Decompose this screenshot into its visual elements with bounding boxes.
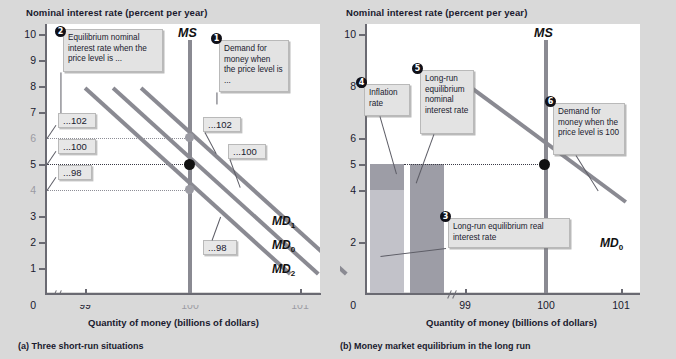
panel-a-md1-label: MD1 [272,214,295,230]
panel-b-right-clip-mask [640,24,676,295]
panel-a-guide-4 [47,190,189,191]
panel-b-callout-3-marker: 3 [440,211,451,222]
panel-a-ylabel-0: 0 [16,299,36,311]
panel-a-x-axis-line-top [45,293,321,295]
panel-a-caption: (a) Three short-run situations [18,341,144,351]
panel-a-three-short-run-situations: Nominal interest rate (percent per year)… [0,0,338,359]
panel-a-y-axis-title: Nominal interest rate (percent per year) [26,7,207,18]
panel-a-callout-equilibrium-rate: Equilibrium nominal interest rate when t… [63,29,163,72]
panel-b-caption: (b) Money market equilibrium in the long… [340,341,531,351]
panel-b-callout-5-marker: 5 [412,63,423,74]
panel-b-xlabel-101: 101 [606,299,636,311]
panel-b-ms-label: MS [534,26,553,40]
panel-b-bar-inflation-rate [370,164,404,190]
panel-b-ylabel-6: 6 [336,132,356,144]
panel-a-right-value-100: ...100 [228,144,266,159]
panel-b-ylabel-5: 5 [336,158,356,170]
panel-a-equilibrium-dot-5 [184,159,195,170]
panel-b-equilibrium-dot [539,159,550,170]
panel-a-right-value-98: ...98 [203,240,237,255]
panel-b-y-axis-line [365,24,367,295]
panel-a-ylabel-8: 8 [16,80,36,92]
panel-a-ytick-8 [39,86,45,88]
panel-b-bar-real-interest-rate [370,190,404,293]
panel-b-callout-inflation-rate: Inflation rate [364,84,410,116]
panel-a-ylabel-3: 3 [16,210,36,222]
panel-b-guide-5 [404,164,546,165]
panel-b-callout-6-marker: 6 [545,96,556,107]
panel-a-ylabel-2: 2 [16,236,36,248]
panel-b-xlabel-100: 100 [531,299,561,311]
panel-b-ytick-4 [359,190,365,192]
panel-b-ytick-5 [359,164,365,166]
panel-b-x-axis-line [365,293,641,295]
panel-a-md0-label: MD0 [272,238,295,254]
panel-a-ytick-1 [39,268,45,270]
panel-a-ylabel-7: 7 [16,106,36,118]
panel-b-ytick-10 [359,34,365,36]
panel-b-xlabel-99: 99 [450,299,480,311]
panel-a-md2-label: MD2 [272,262,295,278]
panel-a-ylabel-10: 10 [16,28,36,40]
panel-a-x-axis-title: Quantity of money (billions of dollars) [88,317,259,328]
panel-a-ylabel-9: 9 [16,54,36,66]
panel-a-left-value-102: ...102 [58,113,96,128]
panel-b-ylabel-0: 0 [336,299,356,311]
panel-b-x-axis-title: Quantity of money (billions of dollars) [426,317,597,328]
panel-a-ylabel-5: 5 [16,158,36,170]
panel-a-ylabel-4: 4 [16,184,36,196]
panel-a-right-value-102: ...102 [203,117,241,132]
panel-a-left-value-100: ...100 [58,139,96,154]
panel-b-md0-label: MD0 [600,236,623,252]
panel-b-xtick-101 [621,289,623,295]
panel-b-callout-demand-for-money: Demand for money when the price level is… [553,103,625,155]
panel-a-bottom-clip-mask [45,293,323,305]
panel-a-ylabel-1: 1 [16,262,36,274]
panel-a-callout-1-marker: 1 [211,33,222,44]
panel-a-ms-label: MS [178,26,197,40]
panel-b-ylabel-8: 8 [336,80,356,92]
panel-a-callout-2-marker: 2 [55,26,66,37]
panel-a-y-axis-line [45,24,47,295]
panel-a-ytick-5 [39,164,45,166]
panel-b-ytick-2 [359,242,365,244]
figure-money-market-equilibrium: Nominal interest rate (percent per year)… [0,0,676,359]
panel-a-ytick-3 [39,216,45,218]
panel-a-ytick-2 [39,242,45,244]
panel-a-equilibrium-dot-6 [185,133,194,142]
panel-b-ylabel-4: 4 [336,184,356,196]
panel-b-bar-nominal-interest-rate [410,164,444,293]
panel-b-callout-nominal-rate: Long-run equilibrium nominal interest ra… [420,70,474,134]
panel-b-callout-real-rate: Long-run equilibrium real interest rate [448,218,570,248]
panel-a-callout-1-leader [217,92,218,104]
panel-b-callout-4-marker: 4 [356,77,367,88]
panel-a-ytick-9 [39,60,45,62]
panel-a-ylabel-6: 6 [16,132,36,144]
panel-b-ylabel-10: 10 [336,28,356,40]
panel-b-ytick-6 [359,138,365,140]
panel-a-left-value-98: ...98 [58,165,92,180]
panel-b-xtick-99 [465,289,467,295]
panel-a-ytick-7 [39,112,45,114]
panel-b-y-axis-title: Nominal interest rate (percent per year) [346,7,527,18]
panel-a-callout-demand-for-money: Demand for money when the price level is… [219,40,289,92]
panel-b-long-run-equilibrium: Nominal interest rate (percent per year)… [338,0,676,359]
panel-a-equilibrium-dot-4 [185,185,194,194]
panel-a-ytick-10 [39,34,45,36]
panel-b-ylabel-2: 2 [336,236,356,248]
